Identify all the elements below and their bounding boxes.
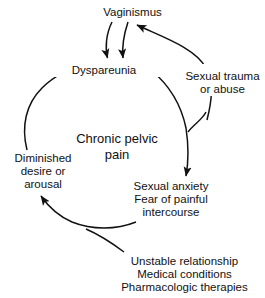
- node-sexual-anxiety-line-3: intercourse: [110, 206, 232, 219]
- node-sexual-anxiety: Sexual anxiety Fear of painful intercour…: [110, 180, 232, 219]
- node-sexual-trauma: Sexual trauma or abuse: [180, 70, 265, 96]
- edge-dyspareunia-to-vaginismus: [123, 22, 128, 58]
- node-diminished-desire-line-1: Diminished: [0, 152, 86, 165]
- node-dyspareunia-line-1: Dyspareunia: [0, 64, 208, 77]
- node-vaginismus: Vaginismus: [0, 6, 265, 19]
- node-contributing-factors: Unstable relationship Medical conditions…: [104, 255, 265, 294]
- node-contributing-factors-line-3: Pharmacologic therapies: [104, 281, 265, 294]
- edge-contributing-factors-to-diminished-desire: [86, 229, 124, 252]
- node-contributing-factors-line-2: Medical conditions: [104, 268, 265, 281]
- node-contributing-factors-line-1: Unstable relationship: [104, 255, 265, 268]
- edge-vaginismus-to-dyspareunia: [106, 22, 112, 58]
- diagram-canvas: Vaginismus Dyspareunia Sexual trauma or …: [0, 0, 265, 298]
- edge-sexual-trauma-merge-line: [188, 112, 206, 132]
- node-vaginismus-line-1: Vaginismus: [0, 6, 265, 19]
- node-sexual-trauma-line-2: or abuse: [180, 83, 265, 96]
- node-chronic-pelvic-pain-line-1: Chronic pelvic: [52, 131, 182, 147]
- node-diminished-desire: Diminished desire or arousal: [0, 152, 86, 191]
- node-diminished-desire-line-3: arousal: [0, 178, 86, 191]
- node-sexual-anxiety-line-2: Fear of painful: [110, 193, 232, 206]
- node-diminished-desire-line-2: desire or: [0, 165, 86, 178]
- node-sexual-anxiety-line-1: Sexual anxiety: [110, 180, 232, 193]
- node-dyspareunia: Dyspareunia: [0, 64, 208, 77]
- node-sexual-trauma-line-1: Sexual trauma: [180, 70, 265, 83]
